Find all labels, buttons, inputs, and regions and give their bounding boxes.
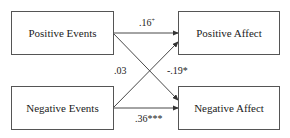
coef-ne-to-pa: .03: [114, 66, 127, 76]
node-label: Positive Events: [28, 27, 96, 39]
node-label: Negative Events: [26, 102, 98, 114]
coef-pe-to-pa: .16+: [139, 18, 155, 28]
coef-ne-to-na: .36***: [135, 114, 163, 124]
node-negative-events: Negative Events: [11, 86, 114, 130]
node-label: Negative Affect: [194, 102, 264, 114]
node-positive-affect: Positive Affect: [178, 11, 280, 55]
node-label: Positive Affect: [196, 27, 261, 39]
node-positive-events: Positive Events: [11, 11, 114, 55]
node-negative-affect: Negative Affect: [178, 86, 280, 130]
coef-pe-to-na: -.19*: [167, 66, 188, 76]
